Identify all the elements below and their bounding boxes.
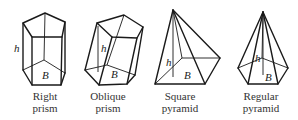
caption-line: Square: [145, 90, 215, 102]
square-pyramid-figure: h B: [155, 10, 220, 84]
oblique-prism-figure: h B: [85, 15, 143, 85]
square-pyramid-h-label: h: [166, 56, 172, 68]
oblique-prism-b-label: B: [111, 68, 118, 80]
caption-line: Right: [10, 90, 80, 102]
oblique-prism-caption: Oblique prism: [73, 90, 143, 114]
regular-pyramid-figure: h B: [238, 12, 288, 84]
right-prism-caption: Right prism: [10, 90, 80, 114]
regular-pyramid-caption: Regular pyramid: [226, 90, 296, 114]
caption-line: prism: [10, 102, 80, 114]
caption-line: pyramid: [145, 102, 215, 114]
square-pyramid-caption: Square pyramid: [145, 90, 215, 114]
regular-pyramid-h-label: h: [255, 52, 261, 64]
caption-line: Regular: [226, 90, 296, 102]
right-prism-figure: h B: [14, 13, 65, 85]
square-pyramid-b-label: B: [184, 69, 191, 81]
regular-pyramid-b-label: B: [265, 71, 272, 83]
caption-line: pyramid: [226, 102, 296, 114]
caption-line: Oblique: [73, 90, 143, 102]
right-prism-b-label: B: [42, 69, 49, 81]
oblique-prism-h-label: h: [101, 42, 107, 54]
caption-line: prism: [73, 102, 143, 114]
right-prism-h-label: h: [14, 42, 20, 54]
